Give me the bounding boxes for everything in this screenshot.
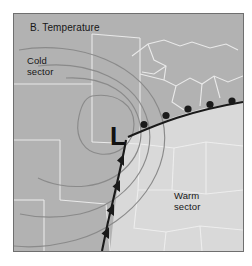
- low-pressure-symbol: L: [110, 121, 126, 151]
- cold-sector-label: Cold sector: [27, 56, 53, 77]
- warm-sector-label: Warm sector: [174, 191, 200, 212]
- panel-title: B. Temperature: [30, 23, 100, 34]
- weather-map-graphic: L: [14, 14, 243, 251]
- weather-map-frame: L: [13, 13, 244, 252]
- figure-panel-b-temperature: L B. Temperature Cold sector Warm sector: [0, 0, 252, 266]
